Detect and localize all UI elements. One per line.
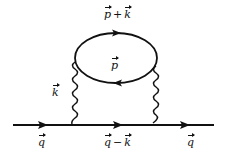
vector-k: k: [124, 137, 131, 148]
vector-q: q: [38, 137, 45, 148]
operator: +: [111, 8, 124, 21]
feynman-diagram: p+k p k q q−k q: [0, 0, 226, 159]
label-q-in: q: [38, 137, 45, 148]
vector-q: q: [187, 137, 194, 148]
boson-line-right: [153, 66, 159, 123]
vector-p: p: [104, 9, 111, 20]
vector-k: k: [124, 9, 131, 20]
boson-line-left: [72, 62, 78, 124]
label-q-minus-k: q−k: [104, 137, 131, 148]
vector-k: k: [52, 87, 59, 98]
label-k: k: [52, 87, 59, 98]
vector-q: q: [104, 137, 111, 148]
vector-p: p: [111, 60, 118, 71]
label-p: p: [111, 60, 118, 71]
operator: −: [111, 136, 124, 149]
label-q-out: q: [187, 137, 194, 148]
label-p-plus-k: p+k: [104, 9, 131, 20]
